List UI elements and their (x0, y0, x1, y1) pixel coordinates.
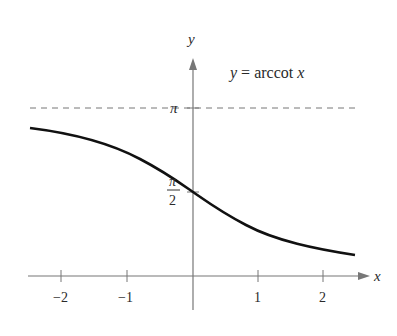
y-axis-arrow-icon (189, 58, 197, 70)
y-tick-label-pi-half-den: 2 (169, 193, 176, 208)
y-axis-label: y (186, 31, 195, 47)
y-tick-label-pi-half-num: π (169, 174, 177, 189)
x-tick-label: 2 (319, 290, 326, 305)
chart-title: y = arccot x (228, 64, 304, 82)
chart-canvas: y x y = arccot x π π 2 −2 −1 1 2 (0, 0, 397, 336)
x-axis-label: x (373, 268, 381, 284)
x-tick-label: −2 (53, 290, 68, 305)
x-tick-label: 1 (254, 290, 261, 305)
y-tick-label-pi: π (170, 100, 178, 116)
x-tick-label: −1 (118, 290, 133, 305)
x-axis-arrow-icon (358, 272, 370, 280)
